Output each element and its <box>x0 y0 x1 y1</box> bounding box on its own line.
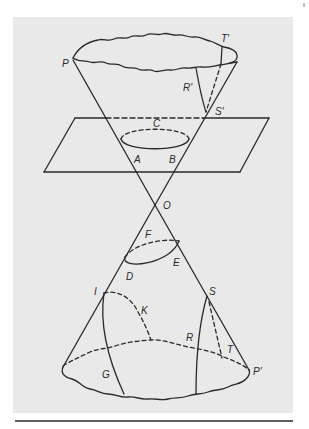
label-I: I <box>94 286 97 297</box>
label-C: C <box>153 118 161 129</box>
label-D: D <box>126 271 133 282</box>
figure-panel <box>13 17 293 413</box>
label-O: O <box>163 200 171 211</box>
label-P-prime: P' <box>253 366 263 377</box>
label-G: G <box>102 369 110 380</box>
double-cone-figure: P T' R' S' C A B O F D E I K S R T G P' <box>0 0 309 429</box>
label-S: S <box>209 286 216 297</box>
label-T-prime: T' <box>221 33 230 44</box>
label-E: E <box>173 257 180 268</box>
label-A: A <box>133 154 141 165</box>
label-F: F <box>145 229 152 240</box>
label-S-prime: S' <box>215 106 225 117</box>
label-R-prime: R' <box>183 82 193 93</box>
label-T: T <box>227 344 234 355</box>
label-R: R <box>186 332 193 343</box>
label-P: P <box>62 58 69 69</box>
label-B: B <box>169 154 176 165</box>
